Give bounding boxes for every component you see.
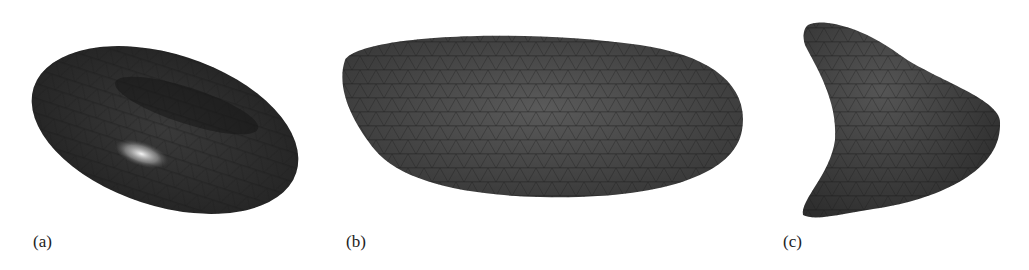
panel-b-label: (b) (346, 232, 366, 252)
panel-c-shape (803, 23, 1000, 218)
panel-c-label: (c) (783, 232, 802, 252)
panel-a-shape (10, 15, 319, 245)
panel-b-shape (342, 36, 743, 198)
figure-canvas (0, 0, 1029, 270)
panel-a-label: (a) (33, 232, 52, 252)
